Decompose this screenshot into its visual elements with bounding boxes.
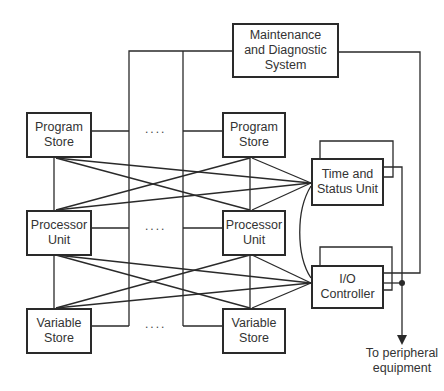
io-controller-box: I/O Controller bbox=[311, 265, 384, 309]
maintenance-label-line1: Maintenance bbox=[250, 28, 322, 43]
maintenance-label-line3: System bbox=[265, 58, 307, 73]
program-store-right-line2: Store bbox=[239, 135, 269, 150]
program-store-right-line1: Program bbox=[230, 120, 278, 135]
variable-store-left-line2: Store bbox=[44, 331, 74, 346]
io-controller-line1: I/O bbox=[339, 272, 356, 287]
processor-right-line1: Processor bbox=[226, 218, 282, 233]
variable-store-right-box: Variable Store bbox=[222, 308, 286, 354]
processor-unit-right-box: Processor Unit bbox=[222, 210, 286, 256]
time-status-line1: Time and bbox=[322, 167, 374, 182]
program-store-right-box: Program Store bbox=[222, 112, 286, 158]
maintenance-label-line2: and Diagnostic bbox=[244, 43, 327, 58]
peripheral-label-line2: equipment bbox=[355, 361, 444, 376]
processor-left-line2: Unit bbox=[48, 233, 70, 248]
ellipsis-variable-row: .... bbox=[145, 317, 166, 331]
program-store-left-line2: Store bbox=[44, 135, 74, 150]
program-store-left-box: Program Store bbox=[26, 112, 92, 158]
io-controller-line2: Controller bbox=[320, 287, 374, 302]
maintenance-diagnostic-system-box: Maintenance and Diagnostic System bbox=[232, 23, 339, 78]
processor-left-line1: Processor bbox=[31, 218, 87, 233]
ellipsis-processor-row: .... bbox=[145, 219, 166, 233]
ellipsis-program-row: .... bbox=[145, 122, 166, 136]
processor-right-line2: Unit bbox=[243, 233, 265, 248]
variable-store-left-box: Variable Store bbox=[26, 308, 92, 354]
time-status-unit-box: Time and Status Unit bbox=[311, 158, 384, 206]
peripheral-label-line1: To peripheral bbox=[355, 346, 444, 361]
processor-unit-left-box: Processor Unit bbox=[26, 210, 92, 256]
peripheral-output-label: To peripheral equipment bbox=[355, 346, 444, 376]
variable-store-right-line2: Store bbox=[239, 331, 269, 346]
variable-store-right-line1: Variable bbox=[232, 316, 277, 331]
variable-store-left-line1: Variable bbox=[37, 316, 82, 331]
time-status-line2: Status Unit bbox=[317, 182, 378, 197]
program-store-left-line1: Program bbox=[35, 120, 83, 135]
